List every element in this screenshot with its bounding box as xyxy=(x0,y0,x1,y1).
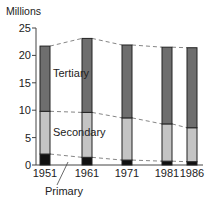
connector-line xyxy=(50,111,82,112)
connector-line xyxy=(92,157,122,160)
y-tick-label: 5 xyxy=(25,132,31,144)
y-axis-title: Millions xyxy=(6,5,41,17)
bar-segment-primary xyxy=(122,160,132,165)
y-tick-label: 20 xyxy=(19,49,31,61)
bar-segment-secondary xyxy=(40,111,50,154)
connector-line xyxy=(50,154,82,157)
label-tertiary: Tertiary xyxy=(53,67,90,79)
connector-line xyxy=(172,124,187,128)
connector-line xyxy=(132,160,162,161)
x-tick-label: 1951 xyxy=(33,167,57,179)
x-tick-label: 1986 xyxy=(180,167,204,179)
connector-line xyxy=(92,38,122,45)
stacked-bar-chart: 0510152025Millions19511961197119811986Te… xyxy=(0,0,215,211)
bar-segment-secondary xyxy=(162,124,172,161)
bar-segment-secondary xyxy=(122,118,132,160)
bar-segment-tertiary xyxy=(162,47,172,124)
y-tick-label: 0 xyxy=(25,159,31,171)
x-tick-label: 1971 xyxy=(115,167,139,179)
bar-segment-primary xyxy=(40,154,50,165)
x-tick-label: 1961 xyxy=(75,167,99,179)
connector-line xyxy=(50,38,82,46)
bar-segment-tertiary xyxy=(40,46,50,111)
bar-segment-secondary xyxy=(187,128,197,162)
connector-line xyxy=(132,118,162,124)
bar-segment-tertiary xyxy=(122,45,132,118)
bar-segment-primary xyxy=(162,161,172,165)
label-primary: Primary xyxy=(45,185,83,197)
y-tick-label: 15 xyxy=(19,77,31,89)
x-tick-label: 1981 xyxy=(155,167,179,179)
connector-line xyxy=(172,161,187,162)
bar-segment-primary xyxy=(82,157,92,165)
connector-line xyxy=(92,112,122,117)
connector-line xyxy=(172,47,187,48)
connector-line xyxy=(132,45,162,47)
y-tick-label: 10 xyxy=(19,104,31,116)
label-secondary: Secondary xyxy=(53,126,106,138)
bar-segment-tertiary xyxy=(187,48,197,128)
y-tick-label: 25 xyxy=(19,22,31,34)
